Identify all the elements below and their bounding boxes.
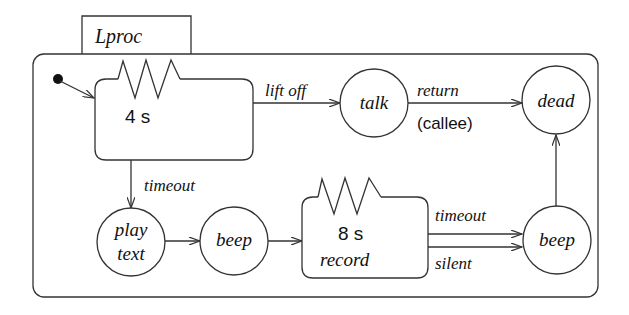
state-beep-2-label: beep [539, 229, 575, 250]
state-wait[interactable]: 4 s [95, 60, 253, 160]
state-beep-1-label: beep [216, 229, 252, 250]
state-talk-label: talk [360, 92, 389, 113]
state-play-text[interactable]: play text [97, 208, 165, 276]
transition-return-label: return [417, 81, 459, 100]
initial-transition-arrow [60, 81, 94, 98]
transition-timeout-down-label: timeout [144, 176, 196, 195]
state-record-label: record [320, 249, 370, 270]
container-tab: Lproc [82, 16, 191, 54]
state-talk[interactable]: talk [340, 69, 408, 137]
state-wait-timer: 4 s [125, 106, 150, 127]
transition-silent-label: silent [435, 254, 473, 273]
state-dead-label: dead [538, 90, 575, 111]
state-play-line1: play [113, 219, 148, 240]
transition-lift-off-label: lift off [265, 81, 308, 100]
diagram-canvas: Lproc 4 s lift off talk return (callee) … [0, 0, 629, 315]
state-beep-1[interactable]: beep [200, 207, 268, 275]
initial-state-dot [53, 74, 63, 84]
transition-timeout-right-label: timeout [435, 206, 487, 225]
state-record[interactable]: 8 s record [302, 178, 428, 278]
transition-return-sublabel: (callee) [417, 114, 473, 133]
state-dead[interactable]: dead [522, 66, 590, 134]
container-label: Lproc [94, 25, 142, 48]
state-play-line2: text [117, 243, 145, 264]
state-beep-2[interactable]: beep [523, 206, 591, 274]
state-record-timer: 8 s [338, 223, 363, 244]
